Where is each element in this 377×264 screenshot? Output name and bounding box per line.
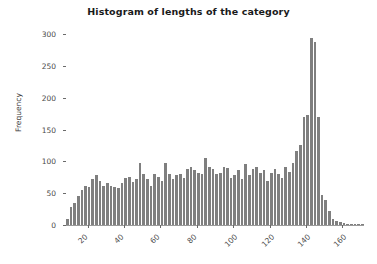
x-tick-label: 160 xyxy=(332,232,348,248)
chart-title: Histogram of lengths of the category xyxy=(0,6,377,17)
x-tick-mark xyxy=(306,225,307,228)
x-tick-label: 40 xyxy=(113,232,126,245)
y-tick-label: 50 xyxy=(46,189,56,198)
y-tick-label: 200 xyxy=(42,93,56,102)
x-tick-mark xyxy=(270,225,271,228)
x-tick-mark xyxy=(124,225,125,228)
x-tick-label: 20 xyxy=(76,232,89,245)
x-tick-mark xyxy=(342,225,343,228)
histogram-bars xyxy=(66,28,364,225)
x-tick-mark xyxy=(197,225,198,228)
plot-area xyxy=(66,28,364,225)
x-tick-mark xyxy=(160,225,161,228)
y-tick-label: 100 xyxy=(42,157,56,166)
x-tick-label: 100 xyxy=(223,232,239,248)
y-tick-label: 0 xyxy=(51,221,56,230)
x-tick-mark xyxy=(88,225,89,228)
y-tick-label: 300 xyxy=(42,30,56,39)
x-tick-label: 140 xyxy=(296,232,312,248)
x-tick-label: 120 xyxy=(259,232,275,248)
y-tick-label: 150 xyxy=(42,125,56,134)
x-tick-mark xyxy=(233,225,234,228)
y-axis-ticks: 050100150200250300 xyxy=(0,28,66,225)
histogram-figure: Histogram of lengths of the category Fre… xyxy=(0,0,377,264)
x-axis-ticks: 20406080100120140160 xyxy=(66,225,364,264)
x-tick-label: 60 xyxy=(149,232,162,245)
x-tick-label: 80 xyxy=(185,232,198,245)
y-tick-label: 250 xyxy=(42,62,56,71)
